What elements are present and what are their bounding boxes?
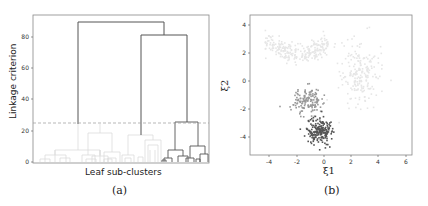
svg-text:40: 40 [21,95,29,102]
svg-text:-2: -2 [240,105,246,112]
svg-text:0: 0 [322,158,326,165]
svg-text:2: 2 [349,158,353,165]
upper-links [78,22,187,135]
panel-a-dendrogram: 0 20 40 60 80 [0,0,214,206]
svg-text:4: 4 [242,21,246,28]
svg-text:4: 4 [376,158,380,165]
scatter-plot: -4 -2 0 2 4 6 -4 -2 0 2 4 [214,0,428,206]
x-axis-ticks: -4 -2 0 2 4 6 [266,155,408,165]
y-axis-label: ξ2 [219,80,230,92]
svg-text:0: 0 [25,158,29,165]
svg-text:20: 20 [21,127,29,134]
svg-text:60: 60 [21,64,29,71]
x-axis-label: Leaf sub-clusters [85,167,162,177]
light-subtrees [40,124,161,162]
svg-text:2: 2 [242,49,246,56]
y-axis-ticks: -4 -2 0 2 4 [240,21,250,140]
svg-text:-2: -2 [294,158,300,165]
svg-text:80: 80 [21,33,29,40]
panel-caption: (a) [112,184,127,197]
svg-text:0: 0 [242,77,246,84]
scatter-points [265,27,392,151]
dark-subtree [162,122,208,162]
panel-caption: (b) [324,184,340,197]
svg-text:-4: -4 [266,158,272,165]
y-axis-ticks: 0 20 40 60 80 [21,33,33,165]
plot-frame [33,15,209,163]
x-axis-label: ξ1 [323,165,335,176]
svg-text:6: 6 [404,158,408,165]
svg-text:-4: -4 [240,133,246,140]
panel-b-scatter: -4 -2 0 2 4 6 -4 -2 0 2 4 ξ2 ξ1 (b) [214,0,428,206]
y-axis-label: Linkage criterion [8,59,18,119]
